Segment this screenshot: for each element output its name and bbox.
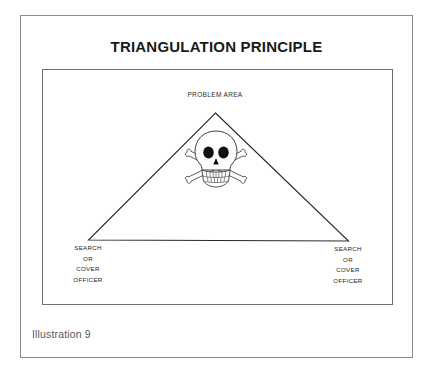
vertex-label-right-line2: OR [313,255,383,266]
skull-group [195,131,237,187]
vertex-label-left: SEARCH OR COVER OFFICER [53,243,123,285]
skull-right-eye [218,147,229,159]
figure-caption: Illustration 9 [32,328,91,340]
vertex-label-right: SEARCH OR COVER OFFICER [313,244,383,286]
problem-area-label: PROBLEM AREA [155,91,275,98]
skull-left-eye [203,147,214,159]
vertex-label-right-line3: COVER [313,265,383,276]
vertex-label-right-line4: OFFICER [313,276,383,287]
vertex-label-left-line3: COVER [53,264,123,275]
vertex-label-right-line1: SEARCH [313,244,383,255]
vertex-label-left-line4: OFFICER [53,275,123,286]
skull-and-crossbones-icon [180,124,252,194]
page-title: TRIANGULATION PRINCIPLE [0,38,433,55]
vertex-label-left-line1: SEARCH [53,243,123,254]
vertex-label-left-line2: OR [53,254,123,265]
